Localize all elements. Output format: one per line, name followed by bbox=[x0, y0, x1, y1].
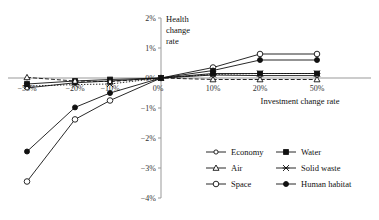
legend-label: Solid waste bbox=[301, 163, 341, 173]
data-point bbox=[257, 51, 263, 57]
x-axis-title: Investment change rate bbox=[261, 96, 340, 106]
y-tick-label: 1% bbox=[145, 44, 156, 53]
legend-marker bbox=[284, 182, 289, 187]
data-point bbox=[159, 76, 164, 81]
legend-label: Space bbox=[231, 179, 252, 189]
y-axis-title-line: Health bbox=[166, 14, 189, 24]
data-point bbox=[24, 179, 30, 185]
data-point bbox=[107, 98, 113, 104]
data-point bbox=[314, 51, 320, 57]
x-tick-label: 50% bbox=[310, 84, 325, 93]
legend-label: Economy bbox=[231, 147, 264, 157]
x-tick-label: 0% bbox=[153, 84, 164, 93]
legend-label: Air bbox=[231, 163, 243, 173]
y-axis-title-line: rate bbox=[166, 36, 179, 46]
chart-container: −50%−20%−10%0%10%20%50% 2%1%0%−1%−2%−3%−… bbox=[0, 0, 379, 220]
legend-marker bbox=[284, 150, 289, 155]
data-point bbox=[258, 58, 263, 63]
data-point bbox=[25, 149, 30, 154]
y-tick-label: −2% bbox=[141, 134, 157, 143]
health-investment-line-chart: −50%−20%−10%0%10%20%50% 2%1%0%−1%−2%−3%−… bbox=[0, 0, 379, 220]
legend-label: Human habitat bbox=[301, 179, 352, 189]
data-point bbox=[211, 68, 216, 73]
data-point bbox=[73, 105, 78, 110]
data-point bbox=[72, 117, 78, 123]
y-tick-label: 2% bbox=[145, 14, 156, 23]
legend-label: Water bbox=[301, 147, 321, 157]
data-point bbox=[315, 58, 320, 63]
y-axis-title-line: change bbox=[166, 25, 190, 35]
y-tick-label: −3% bbox=[141, 164, 157, 173]
x-tick-label: 10% bbox=[206, 84, 221, 93]
y-tick-label: −1% bbox=[141, 104, 157, 113]
data-point bbox=[108, 91, 113, 96]
x-tick-label: 20% bbox=[253, 84, 268, 93]
y-tick-label: −4% bbox=[141, 194, 157, 203]
legend-marker bbox=[214, 150, 218, 154]
legend-marker bbox=[213, 181, 219, 187]
